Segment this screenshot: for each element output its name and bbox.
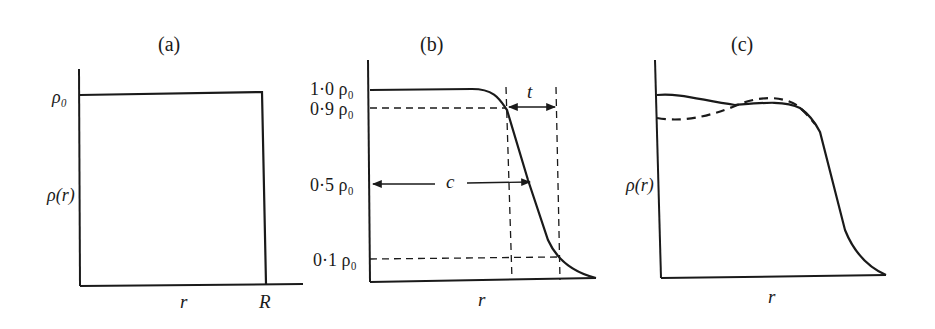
panel-c-x-label: r: [768, 287, 775, 306]
panel-b: (b) 1·0 ρ₀ 0·9 ρ₀ 0·5 ρ₀ 0·1 ρ₀ c t r: [300, 0, 620, 329]
panel-b-c-label: c: [446, 172, 454, 191]
panel-a: (a) ρ₀ ρ(r) r R: [0, 0, 310, 329]
panel-b-ytick-0.1: 0·1 ρ₀: [313, 251, 357, 269]
panel-a-title: (a): [158, 34, 180, 54]
panel-a-plot: [0, 0, 310, 329]
panel-a-rho0-label: ρ₀: [52, 88, 67, 106]
panel-b-ytick-0.5: 0·5 ρ₀: [310, 176, 354, 194]
panel-c-plot: [620, 0, 935, 329]
panel-c-title: (c): [731, 34, 753, 54]
panel-b-ytick-1.0: 1·0 ρ₀: [310, 80, 354, 98]
panel-b-t-label: t: [527, 82, 532, 101]
panel-a-R-label: R: [259, 292, 271, 311]
panel-b-x-label: r: [478, 290, 485, 309]
panel-b-title: (b): [420, 34, 443, 54]
panel-a-y-label: ρ(r): [47, 186, 75, 204]
panel-c: (c) ρ(r) r: [620, 0, 935, 329]
panel-a-x-label: r: [180, 292, 187, 311]
panel-b-plot: [300, 0, 620, 329]
panel-c-y-label: ρ(r): [626, 176, 654, 194]
panel-b-ytick-0.9: 0·9 ρ₀: [310, 100, 354, 118]
